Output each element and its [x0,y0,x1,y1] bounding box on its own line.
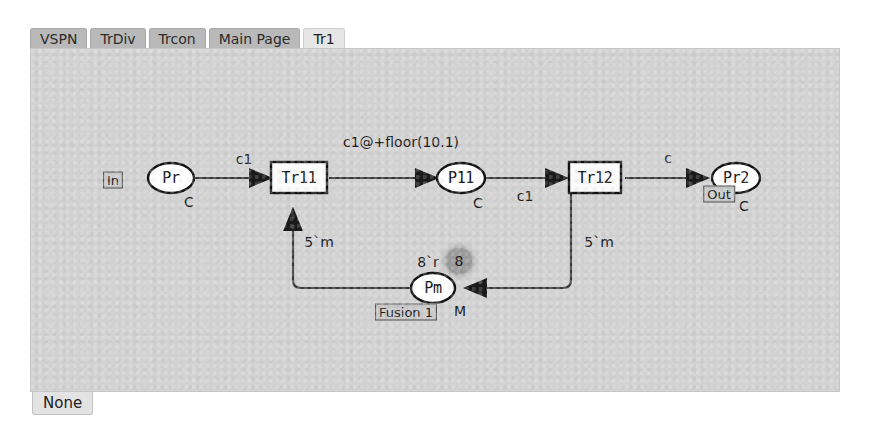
arc-label-pm-tr11: 5`m [304,234,334,250]
place-pr-label: Pr [162,169,179,187]
place-pm-type-label: M [454,303,466,319]
port-label-out[interactable]: Out [703,186,735,203]
tab-trdiv[interactable]: TrDiv [90,28,145,49]
arc-label-pr-tr11: c1 [236,151,253,167]
port-label-in[interactable]: In [103,172,123,189]
arc-label-p11-tr12: c1 [517,188,534,204]
place-pm-token-badge: 8 [446,248,472,274]
diagram-svg [31,49,839,391]
status-tab-none[interactable]: None [32,392,93,415]
place-pr-type-label: C [184,194,194,210]
place-p11-label: P11 [448,169,474,187]
place-pm-marking: 8`r [417,254,439,270]
place-p11-type-label: C [473,195,483,211]
place-pm-label: Pm [424,279,441,297]
tab-vspn[interactable]: VSPN [30,28,87,49]
arc-label-tr12-pr2: c [664,150,672,166]
application-window: VSPNTrDivTrconMain PageTr1 [0,0,873,445]
arc-label-tr11-p11: c1@+floor(10.1) [343,134,459,150]
tab-strip: VSPNTrDivTrconMain PageTr1 [30,27,348,49]
tab-trcon[interactable]: Trcon [149,28,206,49]
petri-net-canvas[interactable]: Pr Tr11 P11 Tr12 Pr2 Pm C C C M In Out F… [30,48,840,392]
place-pr2-type-label: C [739,198,749,214]
fusion-label-pm[interactable]: Fusion 1 [375,304,437,321]
arc-label-tr12-pm: 5`m [584,234,614,250]
place-pr2-label: Pr2 [723,169,749,187]
transition-tr11-label: Tr11 [282,169,317,187]
transition-tr12-label: Tr12 [578,169,613,187]
tab-main-page[interactable]: Main Page [209,28,301,49]
tab-tr1[interactable]: Tr1 [303,28,344,49]
